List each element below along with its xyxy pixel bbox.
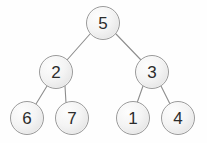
tree-node-label: 5 [98,15,107,32]
tree-edge-n5-n3 [116,34,141,60]
tree-edge-n3-n1 [137,86,143,103]
tree-node-7: 7 [55,101,89,135]
tree-node-label: 4 [173,110,182,127]
tree-node-2: 2 [39,55,73,89]
tree-node-4: 4 [161,101,195,135]
tree-node-6: 6 [10,101,44,135]
tree-node-label: 3 [147,64,156,81]
tree-node-label: 7 [67,110,76,127]
tree-edge-n2-n7 [65,86,66,103]
binary-tree-figure: 5236714 [0,0,207,143]
tree-node-label: 1 [128,110,137,127]
tree-edge-n3-n4 [161,86,170,104]
tree-node-3: 3 [135,55,169,89]
tree-edge-n5-n2 [67,34,90,60]
tree-node-5: 5 [86,6,120,40]
tree-node-1: 1 [116,101,150,135]
tree-edge-n2-n6 [36,86,47,104]
tree-node-label: 2 [51,64,60,81]
tree-node-label: 6 [22,110,31,127]
